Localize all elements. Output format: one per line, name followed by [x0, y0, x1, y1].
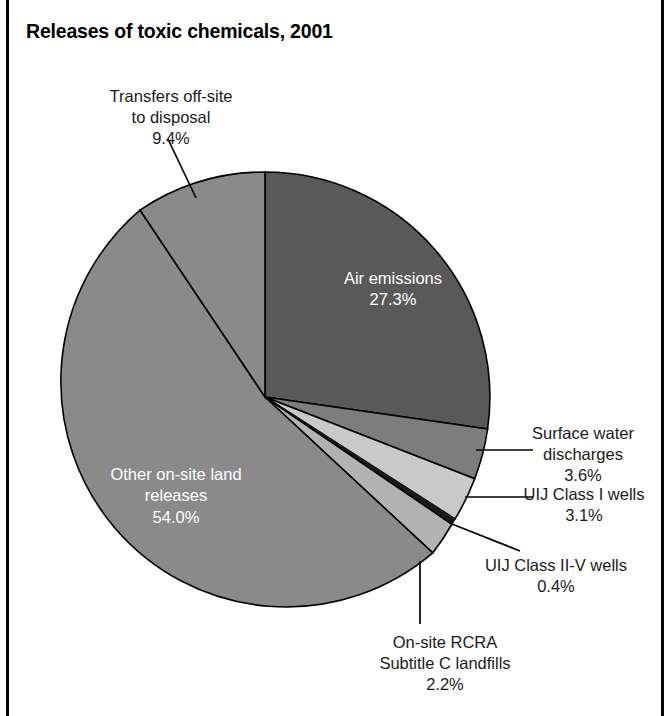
pie-label-transfers-offsite: Transfers off-site to disposal 9.4% [76, 86, 266, 149]
pie-label-surface-water: Surface water discharges 3.6% [498, 423, 668, 486]
chart-figure: Releases of toxic chemicals, 2001 [0, 0, 672, 716]
leader-line-uij2 [452, 524, 520, 551]
pie-label-air-emissions: Air emissions 27.3% [308, 268, 478, 311]
pie-label-other-onsite-land: Other on-site land releases 54.0% [78, 464, 274, 528]
pie-label-uij-class-ii-v: UIJ Class II-V wells 0.4% [450, 555, 662, 597]
pie-slices [61, 172, 490, 607]
pie-label-uij-class-i: UIJ Class I wells 3.1% [499, 484, 669, 526]
pie-label-onsite-rcra: On-site RCRA Subtitle C landfills 2.2% [330, 632, 560, 695]
